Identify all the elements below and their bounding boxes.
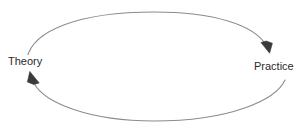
edge-theory-to-practice-path [27,12,266,58]
edge-practice-to-theory-arrowhead [27,71,39,84]
cycle-diagram: Theory Practice [0,0,308,134]
edge-practice-to-theory-path [34,80,285,121]
edge-theory-to-practice-arrowhead [261,41,272,53]
edge-theory-to-practice [27,12,272,58]
node-label-theory: Theory [7,55,43,68]
node-label-practice: Practice [253,60,295,73]
edge-practice-to-theory [27,71,285,121]
